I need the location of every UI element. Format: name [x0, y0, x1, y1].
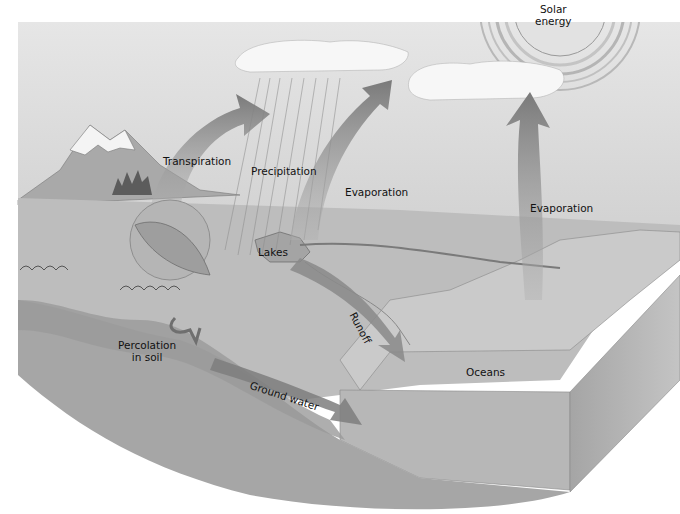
label-percolation: Percolation in soil — [118, 339, 176, 363]
label-transpiration: Transpiration — [163, 155, 231, 167]
label-lakes: Lakes — [258, 246, 288, 258]
cloud-left — [235, 40, 408, 72]
label-precipitation: Precipitation — [251, 165, 317, 177]
label-oceans: Oceans — [466, 366, 505, 378]
cloud-right — [408, 61, 564, 100]
label-evaporation-center: Evaporation — [345, 186, 408, 198]
label-evaporation-right: Evaporation — [530, 202, 593, 214]
water-cycle-diagram — [0, 0, 680, 514]
label-solar-energy: Solar energy — [535, 3, 572, 27]
